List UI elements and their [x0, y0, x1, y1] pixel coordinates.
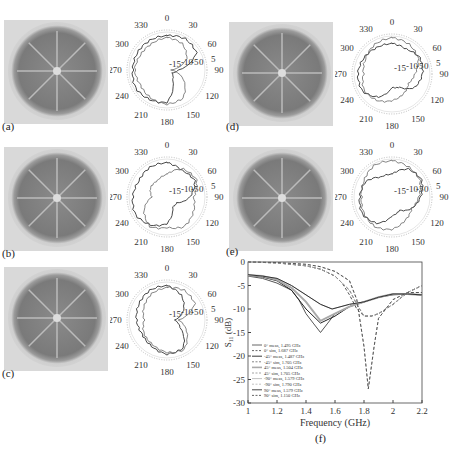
radial-label: 0	[199, 57, 204, 67]
x-tick-label: 2.2	[416, 406, 427, 416]
angle-label: 180	[385, 244, 399, 254]
y-tick-label: -20	[233, 351, 245, 361]
angle-label: 210	[134, 110, 148, 120]
angle-label: 90	[440, 69, 450, 79]
s11-chart: 0-5-10-15-20-25-3011.21.41.61.822.2Frequ…	[222, 255, 445, 430]
spokes-icon	[229, 147, 333, 251]
angle-label: 270	[110, 315, 122, 325]
angle-label: 0	[165, 140, 170, 150]
angle-label: 120	[205, 218, 219, 228]
y-tick-label: -30	[233, 398, 245, 408]
angle-label: 210	[359, 237, 373, 247]
angle-label: 60	[208, 166, 218, 176]
angle-label: 180	[160, 244, 174, 254]
angle-label: 0	[165, 263, 170, 273]
polar-plot-a: 0306090120150180210240270300330-15-10-50…	[110, 8, 225, 133]
angle-label: 30	[414, 147, 424, 157]
angle-label: 210	[359, 114, 373, 124]
radial-label: -15	[169, 309, 181, 319]
angle-label: 0	[165, 13, 170, 23]
x-tick-label: 1.4	[300, 406, 312, 416]
radial-label: 0	[199, 184, 204, 194]
x-tick-label: 1.6	[329, 406, 341, 416]
angle-label: 150	[186, 360, 200, 370]
angle-label: 240	[115, 91, 129, 101]
angle-label: 120	[205, 341, 219, 351]
angle-label: 330	[134, 270, 148, 280]
angle-label: 270	[110, 65, 122, 75]
angle-label: 30	[189, 270, 199, 280]
polar-plot-c: 0306090120150180210240270300330-15-10-50…	[110, 258, 225, 383]
y-tick-label: 0	[241, 257, 246, 267]
radial-label: -5	[191, 57, 199, 67]
radial-label: -15	[169, 59, 181, 69]
antenna-photo-d	[229, 22, 333, 126]
angle-label: 240	[115, 341, 129, 351]
y-tick-label: -5	[238, 281, 246, 291]
angle-label: 60	[208, 39, 218, 49]
radial-label: 5	[211, 304, 216, 314]
panel-label-f: (f)	[315, 432, 326, 444]
x-tick-label: 2	[391, 406, 396, 416]
y-tick-label: -25	[233, 375, 245, 385]
angle-label: 90	[440, 192, 450, 202]
radial-label: -15	[169, 186, 181, 196]
radial-label: -15	[394, 186, 406, 196]
angle-label: 0	[390, 140, 395, 150]
radial-label: 0	[424, 184, 429, 194]
angle-label: 330	[359, 24, 373, 34]
angle-label: 150	[186, 110, 200, 120]
y-tick-label: -10	[233, 304, 245, 314]
polar-plot-e: 0306090120150180210240270300330-15-10-50…	[335, 135, 450, 260]
polar-plot-b: 0306090120150180210240270300330-15-10-50…	[110, 135, 225, 260]
polar-plot-d: 0306090120150180210240270300330-15-10-50…	[335, 12, 450, 137]
angle-label: 90	[215, 192, 225, 202]
spokes-icon	[4, 147, 108, 251]
angle-label: 240	[340, 95, 354, 105]
angle-label: 330	[134, 20, 148, 30]
angle-label: 120	[430, 218, 444, 228]
antenna-photo-b	[4, 147, 108, 251]
radial-label: 5	[211, 181, 216, 191]
angle-label: 120	[205, 91, 219, 101]
angle-label: 180	[160, 117, 174, 127]
x-tick-label: 1.8	[358, 406, 370, 416]
panel-label-b: (b)	[2, 247, 15, 259]
spokes-icon	[4, 267, 108, 371]
antenna-photo-c	[4, 267, 108, 371]
radial-label: 5	[436, 58, 441, 68]
x-tick-label: 1.2	[271, 406, 282, 416]
angle-label: 270	[335, 192, 347, 202]
angle-label: 150	[186, 237, 200, 247]
antenna-photo-a	[4, 20, 108, 124]
panel-label-a: (a)	[2, 120, 14, 132]
angle-label: 180	[160, 367, 174, 377]
angle-label: 60	[433, 166, 443, 176]
angle-label: 270	[110, 192, 122, 202]
angle-label: 210	[134, 237, 148, 247]
angle-label: 150	[411, 114, 425, 124]
radial-label: -15	[394, 63, 406, 73]
legend-entry: 90° sim, 1.150 GHz	[264, 393, 300, 399]
x-tick-label: 1	[246, 406, 251, 416]
angle-label: 30	[414, 24, 424, 34]
angle-label: 240	[340, 218, 354, 228]
angle-label: 330	[359, 147, 373, 157]
angle-label: 300	[115, 166, 129, 176]
angle-label: 60	[433, 43, 443, 53]
angle-label: 330	[134, 147, 148, 157]
angle-label: 30	[189, 147, 199, 157]
angle-label: 30	[189, 20, 199, 30]
radial-label: 0	[424, 61, 429, 71]
angle-label: 300	[115, 289, 129, 299]
spokes-icon	[229, 22, 333, 126]
spokes-icon	[4, 20, 108, 124]
radial-label: 5	[211, 54, 216, 64]
angle-label: 270	[335, 69, 347, 79]
y-tick-label: -15	[233, 328, 245, 338]
angle-label: 180	[385, 121, 399, 131]
panel-label-d: (d)	[226, 120, 239, 132]
angle-label: 0	[390, 17, 395, 27]
radial-label: 0	[199, 307, 204, 317]
angle-label: 300	[340, 166, 354, 176]
